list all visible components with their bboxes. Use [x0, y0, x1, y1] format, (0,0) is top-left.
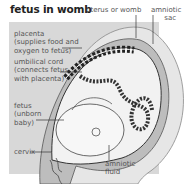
label-amniotic-fluid: amniotic fluid — [105, 160, 135, 177]
label-umbilical-cord: umbilical cord (connects fetus with plac… — [14, 58, 68, 83]
fetus-in-womb-illustration — [0, 0, 188, 184]
label-cervix: cervix — [14, 148, 35, 156]
label-uterus: uterus or womb — [86, 6, 141, 14]
label-amniotic-sac: amniotic sac — [151, 6, 181, 23]
diagram-title: fetus in womb — [10, 3, 92, 15]
label-placenta: placenta (supplies food and oxygen to fe… — [14, 30, 79, 55]
fetus-body — [56, 104, 124, 156]
label-fetus: fetus (unborn baby) — [14, 102, 42, 127]
